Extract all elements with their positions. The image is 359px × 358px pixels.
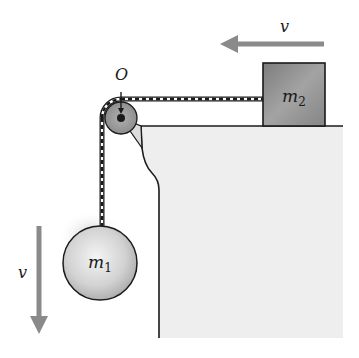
sphere-mass-label: m	[88, 252, 104, 272]
pulley-diagram: O m2 m1 v v	[0, 0, 359, 358]
velocity-arrow-left	[220, 35, 324, 53]
sphere-m1: m1	[63, 226, 137, 300]
pivot-label: O	[115, 65, 128, 84]
block-m2: m2	[263, 63, 325, 126]
velocity-label-block: v	[280, 17, 289, 36]
block-mass-label: m	[282, 86, 298, 106]
velocity-label-sphere: v	[18, 263, 27, 282]
velocity-arrow-down	[30, 226, 48, 334]
sphere-mass-subscript: 1	[104, 261, 112, 275]
table	[121, 118, 343, 338]
block-mass-subscript: 2	[298, 95, 306, 109]
